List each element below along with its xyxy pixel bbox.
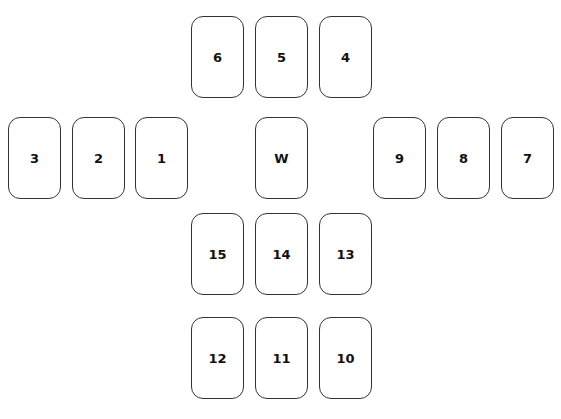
card-position-3: 3: [8, 117, 61, 199]
card-label: 5: [277, 50, 286, 65]
card-label: 11: [272, 351, 290, 366]
card-label: W: [274, 151, 288, 166]
card-position-10: 10: [319, 317, 372, 399]
card-label: 12: [208, 351, 226, 366]
card-label: 13: [336, 247, 354, 262]
card-label: 9: [395, 151, 404, 166]
card-position-12: 12: [191, 317, 244, 399]
card-position-11: 11: [255, 317, 308, 399]
card-label: 2: [94, 151, 103, 166]
card-position-6: 6: [191, 16, 244, 98]
card-position-14: 14: [255, 213, 308, 295]
card-position-4: 4: [319, 16, 372, 98]
card-position-7: 7: [501, 117, 554, 199]
card-label: 8: [459, 151, 468, 166]
card-position-1: 1: [135, 117, 188, 199]
card-label: 15: [208, 247, 226, 262]
card-label: 10: [336, 351, 354, 366]
card-position-9: 9: [373, 117, 426, 199]
card-position-8: 8: [437, 117, 490, 199]
card-position-5: 5: [255, 16, 308, 98]
card-position-13: 13: [319, 213, 372, 295]
card-label: 3: [30, 151, 39, 166]
card-label: 14: [272, 247, 290, 262]
card-position-15: 15: [191, 213, 244, 295]
card-label: 7: [523, 151, 532, 166]
card-label: 4: [341, 50, 350, 65]
card-label: 1: [157, 151, 166, 166]
card-label: 6: [213, 50, 222, 65]
card-position-2: 2: [72, 117, 125, 199]
card-position-w: W: [255, 117, 308, 199]
